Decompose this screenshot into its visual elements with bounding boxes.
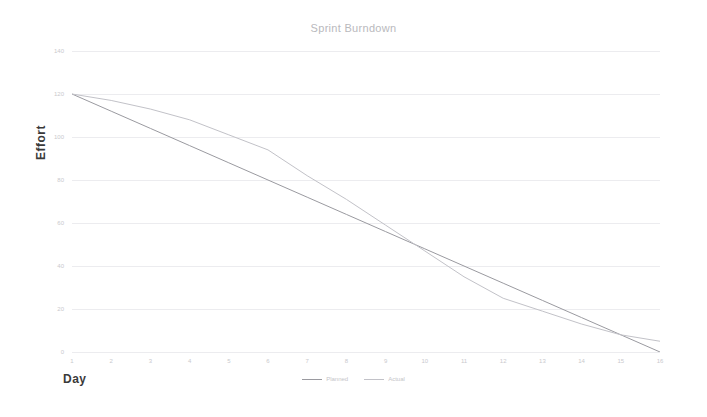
x-axis-tick-label: 7	[296, 358, 318, 364]
chart-canvas: Sprint Burndown Effort Day 0204060801001…	[0, 0, 707, 417]
chart-title: Sprint Burndown	[0, 22, 707, 34]
y-axis-tick-label: 20	[34, 306, 64, 312]
x-axis-tick-label: 4	[179, 358, 201, 364]
x-axis-tick-label: 6	[257, 358, 279, 364]
x-axis-tick-label: 10	[414, 358, 436, 364]
x-axis-tick-label: 5	[218, 358, 240, 364]
series-line-planned	[72, 94, 660, 352]
x-axis-tick-label: 15	[610, 358, 632, 364]
y-axis-tick-label: 100	[34, 134, 64, 140]
x-axis-tick-label: 9	[375, 358, 397, 364]
legend-entry-planned[interactable]: Planned	[302, 376, 348, 383]
gridline	[72, 352, 660, 353]
y-axis-tick-label: 140	[34, 48, 64, 54]
x-axis-tick-label: 11	[453, 358, 475, 364]
series-lines	[72, 51, 660, 352]
y-axis-tick-label: 0	[34, 349, 64, 355]
legend-swatch-icon	[364, 379, 384, 381]
legend-swatch-icon	[302, 379, 322, 381]
x-axis-tick-label: 14	[571, 358, 593, 364]
x-axis-tick-label: 12	[492, 358, 514, 364]
y-axis-tick-label: 120	[34, 91, 64, 97]
series-line-actual	[72, 94, 660, 341]
x-axis-tick-label: 2	[100, 358, 122, 364]
x-axis-tick-label: 16	[649, 358, 671, 364]
x-axis-tick-label: 1	[61, 358, 83, 364]
x-axis-tick-label: 3	[139, 358, 161, 364]
y-axis-tick-label: 40	[34, 263, 64, 269]
y-axis-tick-label: 80	[34, 177, 64, 183]
legend-entry-actual[interactable]: Actual	[364, 376, 405, 383]
y-axis-title: Effort	[34, 125, 48, 160]
chart-legend: PlannedActual	[0, 376, 707, 383]
x-axis-tick-label: 8	[335, 358, 357, 364]
y-axis-tick-label: 60	[34, 220, 64, 226]
legend-label: Actual	[388, 376, 405, 383]
x-axis-tick-label: 13	[531, 358, 553, 364]
plot-area	[72, 51, 660, 352]
legend-label: Planned	[326, 376, 348, 383]
